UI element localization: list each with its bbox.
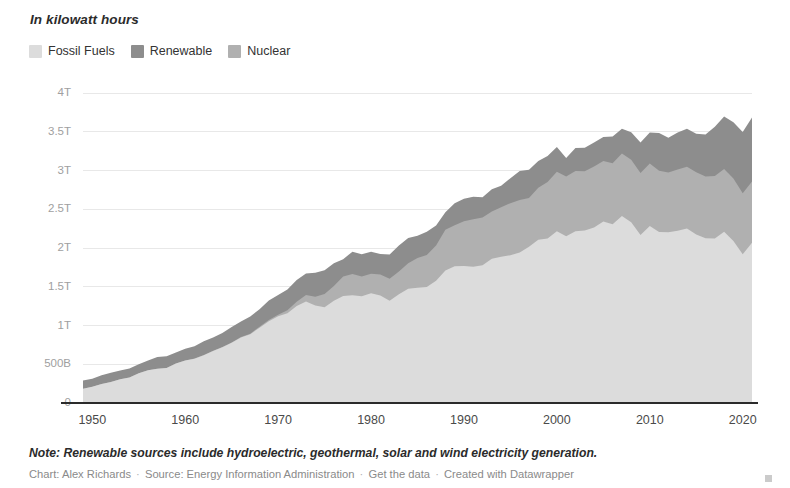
credit-separator-2: · bbox=[358, 468, 366, 480]
credit-chart-author: Chart: Alex Richards bbox=[29, 468, 131, 480]
x-axis-tick-label: 1950 bbox=[78, 413, 106, 427]
legend-label-fossil-fuels: Fossil Fuels bbox=[48, 44, 115, 58]
legend-item-renewable[interactable]: Renewable bbox=[131, 44, 213, 58]
y-axis-tick-label: 2.5T bbox=[48, 202, 71, 214]
created-with-datawrapper-link[interactable]: Created with Datawrapper bbox=[444, 468, 574, 480]
y-axis-tick-label: 3T bbox=[58, 164, 71, 176]
y-axis-tick-label: 2T bbox=[58, 241, 71, 253]
chart-subtitle: In kilowatt hours bbox=[30, 12, 139, 27]
get-the-data-link[interactable]: Get the data bbox=[368, 468, 430, 480]
y-axis-tick-label: 500B bbox=[44, 357, 71, 369]
plot-area: 0500B1T1.5T2T2.5T3T3.5T4T195019601970198… bbox=[0, 78, 790, 428]
y-axis-tick-label: 0 bbox=[65, 396, 71, 408]
legend-label-renewable: Renewable bbox=[150, 44, 213, 58]
stacked-area-chart: 0500B1T1.5T2T2.5T3T3.5T4T195019601970198… bbox=[0, 78, 790, 428]
x-axis-tick-label: 2020 bbox=[729, 413, 757, 427]
chart-legend: Fossil Fuels Renewable Nuclear bbox=[29, 44, 306, 58]
chart-note: Note: Renewable sources include hydroele… bbox=[29, 446, 597, 460]
legend-swatch-renewable bbox=[131, 45, 144, 58]
x-axis-tick-label: 1970 bbox=[264, 413, 292, 427]
x-axis-tick-label: 1960 bbox=[171, 413, 199, 427]
legend-label-nuclear: Nuclear bbox=[247, 44, 290, 58]
legend-item-nuclear[interactable]: Nuclear bbox=[228, 44, 290, 58]
credit-separator-3: · bbox=[433, 468, 441, 480]
credit-source: Source: Energy Information Administratio… bbox=[145, 468, 355, 480]
y-axis-tick-label: 3.5T bbox=[48, 125, 71, 137]
x-axis-tick-label: 1980 bbox=[357, 413, 385, 427]
legend-swatch-fossil-fuels bbox=[29, 45, 42, 58]
y-axis-tick-label: 1T bbox=[58, 319, 71, 331]
datawrapper-chart: In kilowatt hours Fossil Fuels Renewable… bbox=[0, 0, 790, 488]
x-axis-tick-label: 1990 bbox=[450, 413, 478, 427]
chart-credit: Chart: Alex Richards · Source: Energy In… bbox=[29, 468, 574, 480]
y-axis-tick-label: 1.5T bbox=[48, 280, 71, 292]
legend-item-fossil-fuels[interactable]: Fossil Fuels bbox=[29, 44, 115, 58]
x-axis-tick-label: 2010 bbox=[636, 413, 664, 427]
x-axis-tick-label: 2000 bbox=[543, 413, 571, 427]
y-axis-tick-label: 4T bbox=[58, 86, 71, 98]
credit-separator-1: · bbox=[134, 468, 142, 480]
legend-swatch-nuclear bbox=[228, 45, 241, 58]
corner-artifact-icon bbox=[765, 475, 772, 482]
